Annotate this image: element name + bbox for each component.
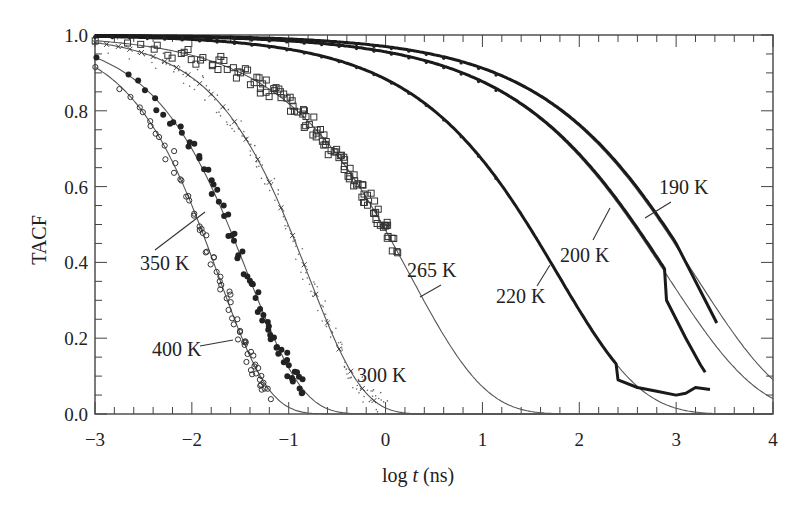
data-point [137, 53, 139, 55]
markers-265K [92, 38, 400, 256]
data-point [362, 401, 364, 403]
data-point [250, 154, 252, 156]
data-point [286, 362, 292, 368]
data-point [320, 40, 323, 43]
data-point [325, 313, 327, 315]
y-tick-label: 0.4 [64, 252, 88, 273]
data-point [172, 148, 177, 153]
data-point [317, 310, 319, 312]
data-point [372, 50, 375, 53]
data-point [220, 104, 225, 109]
data-point [229, 233, 235, 239]
data-point [370, 399, 372, 401]
x-tick-label: −2 [182, 429, 202, 450]
data-point [344, 366, 346, 368]
data-point [320, 43, 323, 46]
data-point [442, 66, 445, 69]
data-point [271, 335, 277, 341]
data-point [145, 53, 147, 55]
x-axis-title: log t (ns) [382, 464, 454, 487]
data-point [264, 183, 266, 185]
data-point [163, 53, 165, 55]
data-point [234, 255, 240, 261]
data-point [231, 238, 237, 244]
x-tick-label: 3 [671, 429, 681, 450]
data-point [300, 271, 302, 273]
data-point [197, 81, 202, 86]
data-point [347, 377, 349, 379]
data-point [299, 390, 305, 396]
data-point [284, 225, 286, 227]
data-point [313, 281, 315, 283]
y-tick-label: 0.0 [64, 404, 88, 425]
data-point [295, 258, 297, 260]
data-point [226, 121, 228, 123]
data-point [477, 67, 480, 70]
data-point [307, 277, 309, 279]
data-point [241, 135, 243, 137]
data-point [341, 343, 343, 345]
data-point [371, 398, 376, 403]
data-point [355, 66, 358, 69]
data-point [121, 46, 123, 48]
data-trace [95, 36, 717, 324]
data-point [151, 54, 156, 59]
data-point [160, 112, 166, 118]
data-point [261, 164, 263, 166]
annotation-label: 200 K [560, 244, 610, 266]
data-point [284, 357, 290, 363]
annotation-leader-line [537, 265, 550, 286]
data-point [233, 42, 236, 45]
y-tick-label: 0.2 [64, 328, 88, 349]
data-point [117, 86, 122, 91]
data-point [257, 306, 263, 312]
data-point [181, 36, 184, 39]
data-point [277, 189, 279, 191]
data-point [220, 115, 222, 117]
data-point [240, 120, 242, 122]
data-point [153, 107, 159, 113]
data-point [232, 119, 237, 124]
data-point [372, 396, 374, 398]
annotation-label: 300 K [357, 364, 407, 386]
x-tick-label: 4 [768, 429, 778, 450]
data-point [387, 400, 389, 402]
data-point [265, 319, 271, 325]
data-point [407, 56, 410, 59]
data-point [477, 155, 480, 158]
data-point [257, 90, 263, 96]
data-point [337, 41, 340, 44]
data-point [107, 53, 109, 55]
data-point [300, 376, 306, 382]
data-point [235, 337, 240, 342]
data-point [231, 322, 236, 327]
data-point [310, 291, 312, 293]
data-point [238, 127, 240, 129]
data-point [215, 36, 218, 39]
data-point [267, 180, 272, 185]
data-point [321, 304, 323, 306]
data-point [225, 212, 231, 218]
data-point [185, 72, 190, 77]
data-point [386, 413, 388, 415]
data-point [327, 319, 329, 321]
data-point [218, 111, 220, 113]
data-point [250, 144, 252, 146]
data-point [93, 35, 96, 38]
data-point [250, 37, 253, 40]
data-point [322, 306, 324, 308]
data-point [209, 92, 214, 97]
data-point [163, 157, 168, 162]
data-point [182, 74, 184, 76]
fit-curve-190K [95, 36, 773, 380]
data-point [256, 166, 258, 168]
data-point [314, 283, 316, 285]
data-point [268, 397, 273, 402]
data-point [285, 38, 288, 41]
data-point [303, 39, 306, 42]
annotation-label: 400 K [152, 338, 202, 360]
data-point [303, 51, 306, 54]
x-tick-labels: −3−2−101234 [85, 429, 778, 450]
data-point [324, 300, 326, 302]
annotation-label: 265 K [407, 259, 457, 281]
